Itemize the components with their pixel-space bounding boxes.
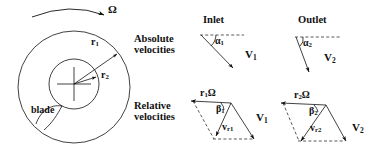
- alpha2-subscript: 2: [309, 41, 312, 48]
- rotation-direction-arc: [32, 9, 104, 17]
- radius-r2-arrow: [74, 77, 96, 84]
- rotation-omega-label: Ω: [108, 4, 117, 16]
- vr1-subscript: r1: [227, 125, 233, 132]
- radius-r1-label: r1: [91, 37, 99, 48]
- relative-inlet-V1-arrow: [231, 103, 254, 139]
- relative-outlet-beta2-label: β2: [309, 106, 318, 117]
- r1omega-symbol: Ω: [208, 87, 216, 98]
- column-heading-outlet: Outlet: [298, 14, 327, 25]
- beta1-subscript: 1: [221, 107, 224, 114]
- absolute-outlet-V2-label: V2: [324, 52, 336, 64]
- radius-r1-subscript: 1: [95, 40, 98, 47]
- relative-inlet-vr1-label: vr1: [222, 122, 233, 133]
- relative-inlet-blade-speed-arrow: [191, 101, 231, 103]
- radius-r2-subscript: 2: [105, 73, 108, 80]
- relative-outlet-V2-label: V2: [352, 122, 364, 134]
- rotor-diagram: [18, 9, 130, 143]
- velocity-triangle-figure: Ω r1 r2 blade Absolute velocities Relati…: [0, 0, 376, 151]
- relative-outlet-vr2-label: vr2: [310, 123, 321, 134]
- relative-inlet-blade-speed-label: r1Ω: [200, 88, 216, 99]
- relative-outlet-blade-speed-arrow: [281, 103, 326, 105]
- relative-velocities-line1: Relative: [134, 100, 175, 111]
- relative-velocities-row-label: Relative velocities: [134, 100, 175, 122]
- relative-velocities-line2: velocities: [134, 111, 175, 122]
- V1-abs-subscript: 1: [253, 53, 257, 62]
- V2-rel-base: V: [352, 121, 360, 133]
- radius-r1-arrow: [74, 54, 117, 84]
- relative-inlet-dashed-side: [193, 101, 214, 139]
- vr2-subscript: r2: [315, 126, 321, 133]
- absolute-inlet-V1-label: V1: [245, 49, 257, 61]
- radius-r2-label: r2: [101, 70, 109, 81]
- absolute-inlet-alpha1-label: α1: [215, 36, 224, 47]
- relative-outlet-V2-arrow: [326, 105, 346, 141]
- blade-label: blade: [31, 105, 54, 116]
- beta2-subscript: 2: [314, 109, 317, 116]
- alpha1-subscript: 1: [221, 39, 224, 46]
- V2-abs-base: V: [324, 51, 332, 63]
- relative-outlet-dashed-side: [283, 103, 299, 141]
- r2omega-symbol: Ω: [302, 89, 310, 100]
- relative-inlet-V1-label: V1: [256, 112, 268, 124]
- V2-abs-subscript: 2: [332, 56, 336, 65]
- absolute-velocities-line2: velocities: [134, 44, 175, 55]
- V1-rel-base: V: [256, 111, 264, 123]
- V1-abs-base: V: [245, 48, 253, 60]
- column-heading-inlet: Inlet: [203, 14, 224, 25]
- relative-inlet-beta1-label: β1: [216, 104, 225, 115]
- absolute-outlet-alpha2-label: α2: [303, 38, 312, 49]
- relative-outlet-blade-speed-label: r2Ω: [294, 90, 310, 101]
- absolute-velocities-line1: Absolute: [134, 33, 175, 44]
- V1-rel-subscript: 1: [264, 116, 268, 125]
- absolute-velocities-row-label: Absolute velocities: [134, 33, 175, 55]
- V2-rel-subscript: 2: [360, 126, 364, 135]
